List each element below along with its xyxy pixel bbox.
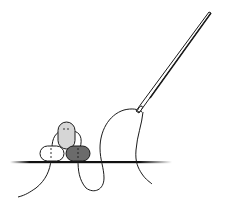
illustration-canvas: Needle threading beads xyxy=(0,0,226,206)
needle-icon xyxy=(136,12,211,113)
fabric-line xyxy=(10,161,172,163)
beading-illustration xyxy=(0,0,226,206)
bead-top xyxy=(58,122,75,149)
needle-eye xyxy=(137,105,144,113)
thread-tail-left xyxy=(18,160,51,197)
thread-needle-down xyxy=(136,112,152,184)
bead-bottom-left xyxy=(40,146,64,161)
